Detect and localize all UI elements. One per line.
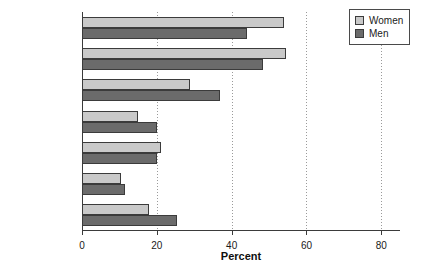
legend-swatch-women <box>355 16 364 25</box>
bar-men-stroke <box>82 184 125 195</box>
legend-label-men: Men <box>369 28 388 39</box>
legend-swatch-men <box>355 29 364 38</box>
bar-women-stroke <box>82 173 121 184</box>
legend-label-women: Women <box>369 15 403 26</box>
bar-men-diabetes <box>82 122 157 133</box>
x-axis-line <box>82 230 400 231</box>
bar-women-hypertension <box>82 48 286 59</box>
bar-women-diabetes <box>82 111 138 122</box>
bar-chart-figure: 020406080 ArthritisHypertensionHeart dis… <box>0 0 431 269</box>
tick-mark-0 <box>82 231 83 235</box>
tick-mark-20 <box>157 231 158 235</box>
gridline-20 <box>157 12 158 231</box>
bar-men-respiratory-diseases <box>82 153 157 164</box>
bar-women-heart-disease <box>82 79 190 90</box>
bar-women-respiratory-diseases <box>82 142 161 153</box>
tick-mark-60 <box>306 231 307 235</box>
legend-item-women[interactable]: Women <box>355 14 403 27</box>
bar-men-arthritis <box>82 28 247 39</box>
legend-item-men[interactable]: Men <box>355 27 403 40</box>
tick-mark-40 <box>232 231 233 235</box>
gridline-40 <box>232 12 233 231</box>
gridline-60 <box>306 12 307 231</box>
bar-women-cancer <box>82 204 149 215</box>
bar-women-arthritis <box>82 17 284 28</box>
bar-men-hypertension <box>82 59 263 70</box>
legend-box: WomenMen <box>349 9 410 45</box>
x-axis-label: Percent <box>82 250 400 262</box>
tick-mark-80 <box>381 231 382 235</box>
bar-men-cancer <box>82 215 177 226</box>
bar-men-heart-disease <box>82 90 220 101</box>
